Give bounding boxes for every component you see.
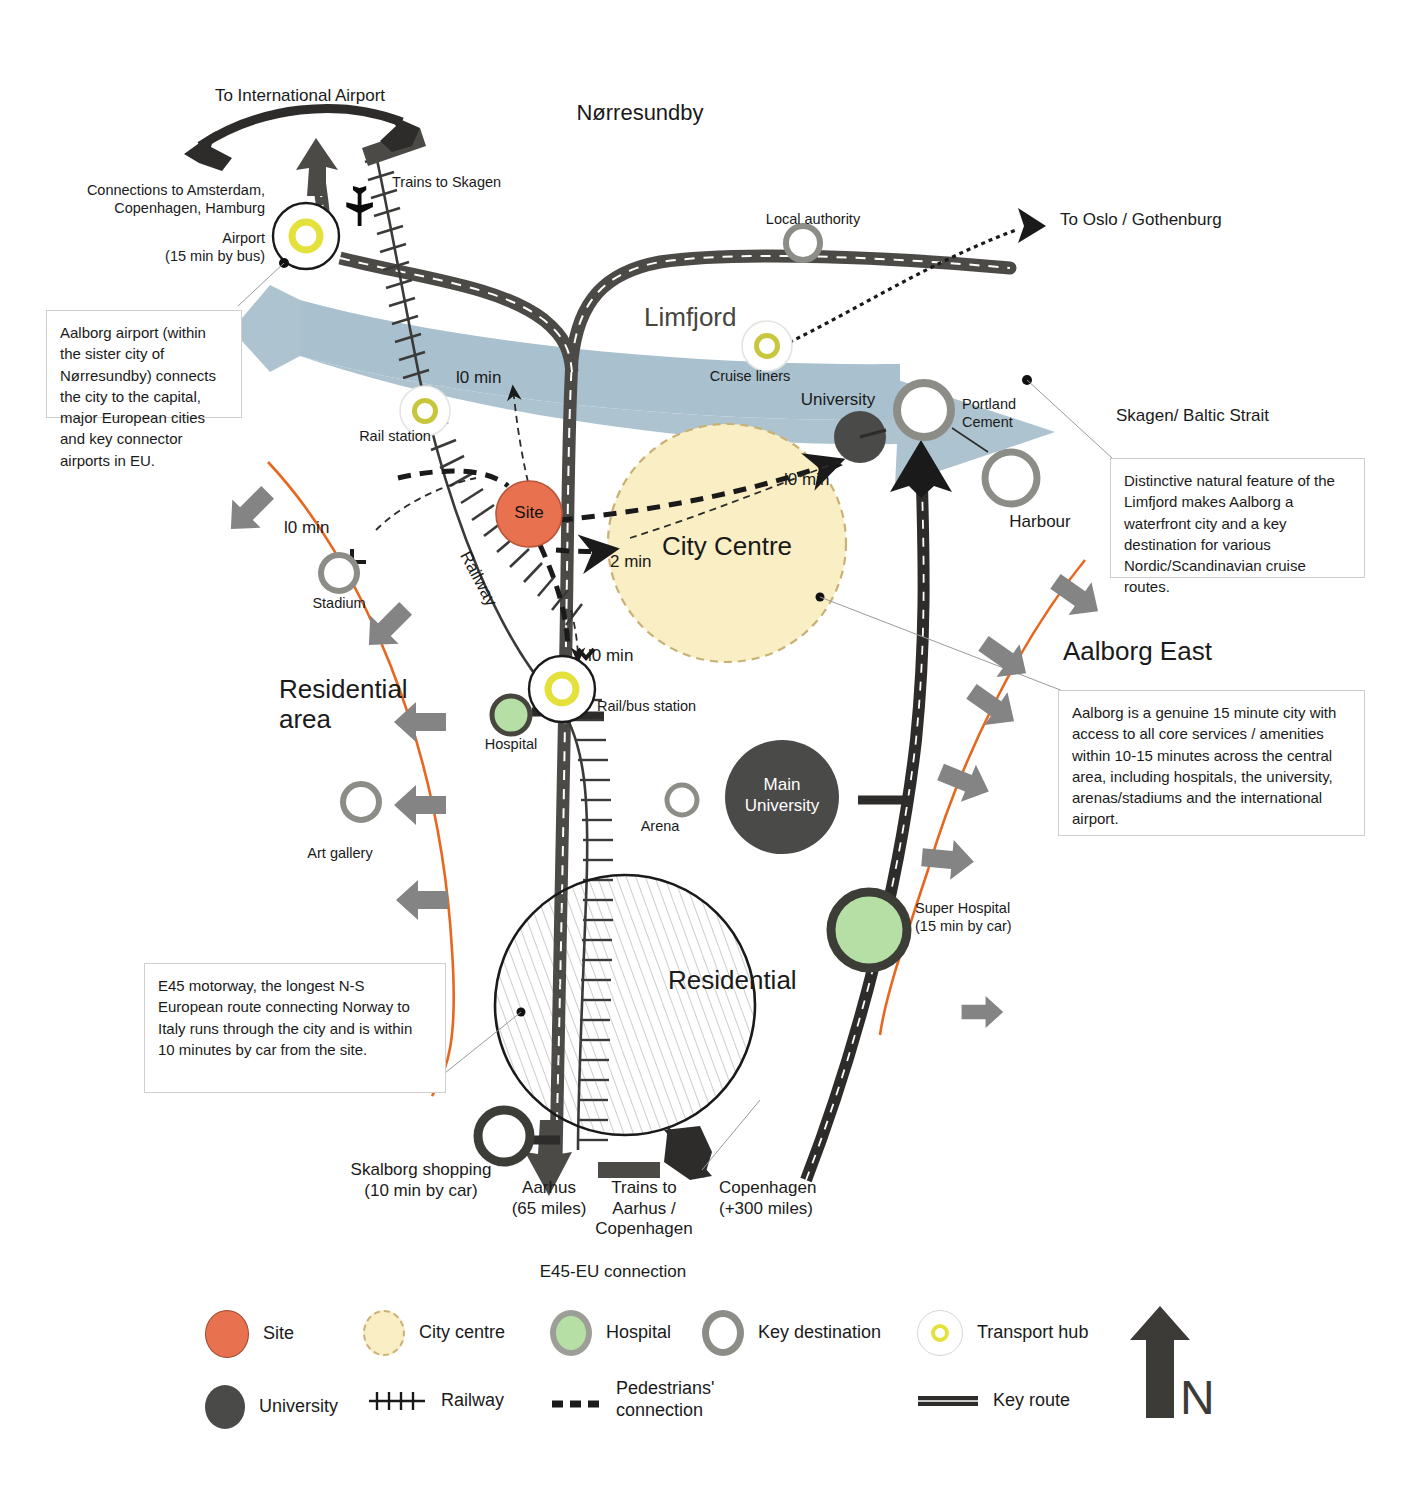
hospital-circle-icon (550, 1310, 592, 1356)
key-route-line-icon (917, 1394, 979, 1408)
legend-item-key-destination: Key destination (702, 1310, 881, 1356)
callout-fifteen-minute-city: Aalborg is a genuine 15 minute city with… (1058, 690, 1365, 836)
label-airport: Airport (15 min by bus) (165, 230, 265, 265)
legend-item-railway: Railway (367, 1390, 504, 1412)
label-copenhagen: Copenhagen (+300 miles) (719, 1178, 816, 1219)
residential-zone (445, 875, 755, 1135)
compass: N (1118, 1304, 1228, 1428)
key-destination-ring-icon (702, 1310, 744, 1356)
node-hospital[interactable] (492, 696, 530, 734)
legend-label-transport-hub: Transport hub (977, 1322, 1088, 1344)
label-to-international-airport: To International Airport (215, 86, 385, 107)
label-e45-eu-connection: E45-EU connection (540, 1262, 686, 1283)
legend-item-site: Site (205, 1310, 294, 1358)
legend-label-key-destination: Key destination (758, 1322, 881, 1344)
node-stadium[interactable] (321, 555, 357, 591)
legend-item-city-centre: City centre (363, 1310, 505, 1356)
compass-label-n: N (1180, 1371, 1215, 1424)
label-to-oslo-gothenburg: To Oslo / Gothenburg (1060, 210, 1222, 231)
cruise-route (782, 208, 1046, 346)
label-university: University (801, 390, 876, 411)
transport-hub-icon (917, 1310, 963, 1356)
node-harbour[interactable] (985, 452, 1037, 504)
node-art-gallery[interactable] (343, 784, 379, 820)
label-harbour: Harbour (1009, 512, 1070, 533)
label-time-rail-bus: l0 min (588, 646, 633, 667)
legend: Site City centre Hospital Key destinatio… (205, 1300, 1105, 1440)
label-rail-station: Rail station (359, 428, 431, 446)
label-skagen-baltic-strait: Skagen/ Baltic Strait (1116, 406, 1269, 427)
city-centre-circle-icon (363, 1310, 405, 1356)
callout-e45: E45 motorway, the longest N-S European r… (144, 963, 446, 1093)
label-norresundby: Nørresundby (576, 100, 703, 127)
legend-label-university: University (259, 1396, 338, 1418)
label-skalborg-shopping: Skalborg shopping (10 min by car) (351, 1160, 492, 1201)
legend-item-university: University (205, 1385, 338, 1429)
label-residential-area: Residential area (279, 675, 408, 735)
dashed-line-icon (550, 1395, 602, 1405)
label-city-centre: City Centre (662, 531, 792, 563)
node-cruise-liners[interactable] (742, 321, 792, 371)
label-aalborg-east: Aalborg East (1063, 637, 1212, 667)
limfjord-callout-leader (1022, 375, 1112, 458)
legend-item-pedestrians: Pedestrians' connection (550, 1378, 715, 1421)
legend-item-key-route: Key route (917, 1390, 1070, 1412)
label-time-stadium: l0 min (284, 518, 329, 539)
node-skalborg-shopping[interactable] (478, 1110, 530, 1162)
label-portland-cement: Portland Cement (962, 396, 1016, 431)
callout-limfjord: Distinctive natural feature of the Limfj… (1110, 458, 1365, 578)
label-arena: Arena (641, 818, 680, 836)
plane-icon (346, 186, 373, 226)
legend-label-city-centre: City centre (419, 1322, 505, 1344)
label-super-hospital: Super Hospital (15 min by car) (915, 900, 1012, 935)
label-limfjord: Limfjord (644, 302, 736, 334)
callout-airport: Aalborg airport (within the sister city … (46, 310, 242, 418)
legend-label-hospital: Hospital (606, 1322, 671, 1344)
label-aarhus: Aarhus (65 miles) (512, 1178, 587, 1219)
legend-item-transport-hub: Transport hub (917, 1310, 1088, 1356)
node-arena[interactable] (667, 785, 697, 815)
label-local-authority: Local authority (766, 211, 860, 229)
legend-label-site: Site (263, 1323, 294, 1345)
label-cruise-liners: Cruise liners (710, 368, 791, 386)
legend-label-pedestrians: Pedestrians' connection (616, 1378, 715, 1421)
legend-label-key-route: Key route (993, 1390, 1070, 1412)
label-trains-to-aarhus-copenhagen: Trains to Aarhus / Copenhagen (595, 1178, 692, 1240)
label-site: Site (514, 503, 543, 524)
label-time-site-to-centre: 2 min (610, 552, 652, 573)
label-time-city-centre-ne: l0 min (784, 470, 829, 491)
node-local-authority[interactable] (786, 226, 820, 260)
label-hospital: Hospital (485, 736, 537, 754)
diagram-canvas: Nørresundby To International Airport Con… (0, 0, 1410, 1488)
label-rail-bus-station: Rail/bus station (597, 698, 696, 716)
node-rail-bus-station[interactable] (529, 656, 595, 722)
node-super-hospital[interactable] (831, 892, 907, 968)
label-time-site-north: l0 min (456, 368, 501, 389)
legend-item-hospital: Hospital (550, 1310, 671, 1356)
railway-line-icon (367, 1390, 427, 1412)
label-residential: Residential (668, 965, 797, 997)
label-art-gallery: Art gallery (307, 845, 372, 863)
label-trains-to-skagen: Trains to Skagen (392, 174, 501, 192)
university-circle-icon (205, 1385, 245, 1429)
label-connections-to: Connections to Amsterdam, Copenhagen, Ha… (87, 182, 265, 217)
label-stadium: Stadium (312, 595, 365, 613)
label-main-university: Main University (745, 775, 820, 816)
legend-label-railway: Railway (441, 1390, 504, 1412)
site-circle-icon (205, 1310, 249, 1358)
